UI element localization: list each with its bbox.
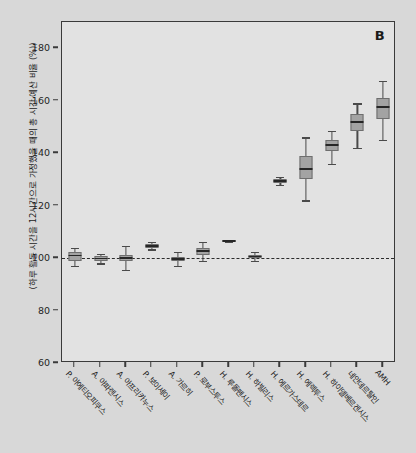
median-line bbox=[223, 240, 236, 242]
x-tick-mark bbox=[253, 362, 255, 367]
x-tick-mark bbox=[227, 362, 229, 367]
whisker-cap-upper bbox=[97, 254, 105, 255]
whisker-lower bbox=[305, 179, 306, 200]
whisker-lower bbox=[126, 261, 127, 270]
median-line bbox=[145, 245, 158, 247]
whisker-upper bbox=[357, 103, 358, 113]
x-tick-mark bbox=[73, 362, 75, 367]
whisker-lower bbox=[357, 131, 358, 148]
y-tick-mark bbox=[53, 309, 58, 311]
whisker-cap-upper bbox=[328, 131, 336, 132]
whisker-cap-lower bbox=[379, 140, 387, 141]
whisker-cap-lower bbox=[174, 266, 182, 267]
x-tick-mark bbox=[279, 362, 281, 367]
whisker-cap-upper bbox=[174, 252, 182, 253]
y-tick-label: 180 bbox=[32, 42, 50, 53]
median-line bbox=[248, 256, 261, 258]
figure-panel-b: (하루 활동 시간을 12시간으로 가정했을 때의 총 시간 예산 비율 (%)… bbox=[0, 0, 416, 453]
y-tick-mark bbox=[53, 256, 58, 258]
whisker-cap-lower bbox=[148, 249, 156, 250]
y-tick-label: 120 bbox=[32, 199, 50, 210]
whisker-cap-lower bbox=[122, 270, 130, 271]
whisker-cap-lower bbox=[97, 263, 105, 264]
y-tick-label: 140 bbox=[32, 147, 50, 158]
whisker-cap-upper bbox=[71, 248, 79, 249]
whisker-upper bbox=[126, 246, 127, 255]
x-axis-labels: P. 아에티오피쿠스A. 아파렌시스A. 아프리카누스P. 보이세이A. 가르히… bbox=[61, 368, 395, 453]
median-line bbox=[197, 250, 210, 252]
y-tick-label: 160 bbox=[32, 94, 50, 105]
x-tick-mark bbox=[304, 362, 306, 367]
whisker-cap-upper bbox=[251, 252, 259, 253]
y-axis-ticks: 6080100120140160180 bbox=[34, 21, 58, 362]
whisker-upper bbox=[383, 81, 384, 98]
median-line bbox=[351, 121, 364, 123]
whisker-cap-lower bbox=[251, 261, 259, 262]
median-line bbox=[300, 168, 313, 170]
x-tick-label: AMH bbox=[373, 368, 392, 387]
y-tick-mark bbox=[53, 99, 58, 101]
plot-inner bbox=[62, 22, 394, 361]
y-tick-label: 60 bbox=[38, 357, 50, 368]
whisker-cap-upper bbox=[302, 137, 310, 138]
y-tick-label: 100 bbox=[32, 252, 50, 263]
median-line bbox=[325, 144, 338, 146]
x-tick-mark bbox=[356, 362, 358, 367]
whisker-cap-upper bbox=[353, 103, 361, 104]
whisker-cap-upper bbox=[199, 242, 207, 243]
median-line bbox=[377, 106, 390, 108]
median-line bbox=[120, 257, 133, 259]
median-line bbox=[171, 258, 184, 260]
y-tick-mark bbox=[53, 361, 58, 363]
median-line bbox=[68, 255, 81, 257]
panel-label: B bbox=[375, 28, 385, 43]
whisker-cap-lower bbox=[276, 185, 284, 186]
whisker-lower bbox=[331, 151, 332, 164]
x-tick-mark bbox=[202, 362, 204, 367]
y-tick-mark bbox=[53, 151, 58, 153]
reference-line-100 bbox=[62, 258, 394, 259]
median-line bbox=[274, 180, 287, 182]
whisker-upper bbox=[331, 131, 332, 140]
x-tick-mark bbox=[330, 362, 332, 367]
plot-area: B bbox=[61, 21, 395, 362]
whisker-cap-lower bbox=[71, 266, 79, 267]
x-tick-mark bbox=[150, 362, 152, 367]
box-iqr bbox=[377, 98, 390, 119]
whisker-cap-lower bbox=[199, 261, 207, 262]
whisker-cap-upper bbox=[379, 81, 387, 82]
whisker-cap-lower bbox=[353, 148, 361, 149]
whisker-cap-upper bbox=[122, 246, 130, 247]
whisker-cap-lower bbox=[302, 200, 310, 201]
y-tick-mark bbox=[53, 46, 58, 48]
x-tick-mark bbox=[176, 362, 178, 367]
x-tick-mark bbox=[381, 362, 383, 367]
whisker-upper bbox=[305, 137, 306, 155]
x-tick-mark bbox=[99, 362, 101, 367]
x-tick-mark bbox=[124, 362, 126, 367]
y-tick-label: 80 bbox=[38, 304, 50, 315]
whisker-lower bbox=[383, 119, 384, 140]
whisker-cap-lower bbox=[328, 164, 336, 165]
median-line bbox=[94, 258, 107, 260]
y-tick-mark bbox=[53, 204, 58, 206]
